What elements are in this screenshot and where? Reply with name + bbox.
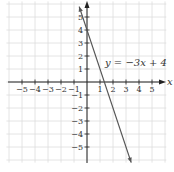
y-tick-label: 2 [78,52,83,61]
x-tick-label: 4 [136,85,141,94]
axes [8,1,166,163]
y-tick-label: 1 [78,65,83,74]
x-axis-label: x [167,76,173,87]
y-tick-label: −5 [71,143,83,152]
x-tick-label: −3 [42,85,54,94]
x-tick-label: −2 [55,85,67,94]
y-arrow-icon [85,1,90,8]
x-tick-label: 3 [123,85,128,94]
y-tick-label: −4 [71,130,83,139]
y-tick-label: 4 [78,26,83,35]
x-tick-label: 2 [110,85,115,94]
line-chart: −5−4−3−2−112345−5−4−3−2−112345 x y = −3x… [0,0,174,172]
x-tick-label: 5 [149,85,154,94]
x-tick-label: −5 [16,85,28,94]
line-arrow-icon [79,7,83,12]
x-tick-label: −4 [29,85,41,94]
x-tick-label: 1 [97,85,102,94]
equation-label: y = −3x + 4 [104,57,167,68]
y-tick-label: −2 [71,104,83,113]
y-tick-label: −3 [71,117,83,126]
y-tick-label: 3 [78,39,83,48]
y-tick-label: −1 [71,91,83,100]
